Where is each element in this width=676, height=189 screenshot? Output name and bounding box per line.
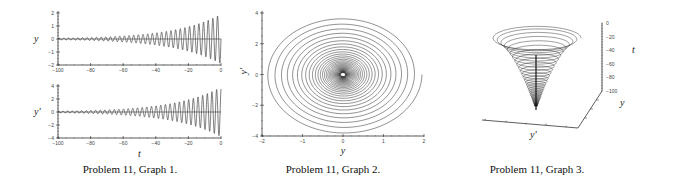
graph-1-ylabel: y	[33, 33, 39, 44]
graph-2-ylabel: y'	[238, 67, 249, 75]
svg-text:−100: −100	[52, 140, 63, 146]
graph-3-zlabel: t	[632, 44, 635, 55]
graph-1-series	[58, 89, 221, 136]
graph-1-ylabel: y'	[33, 106, 41, 117]
svg-text:−60: −60	[606, 61, 615, 67]
svg-text:−4: −4	[252, 133, 258, 139]
graph-3-xlabel: y'	[529, 129, 537, 140]
svg-text:−60: −60	[119, 67, 128, 73]
svg-text:−20: −20	[184, 67, 193, 73]
graph-2-spiral	[268, 19, 422, 133]
svg-text:−20: −20	[606, 34, 615, 40]
svg-text:2: 2	[255, 41, 258, 47]
svg-text:4: 4	[255, 10, 258, 16]
graph-2: −4−2024−2−1012yy'	[230, 0, 450, 160]
graph-3-ylabel: y	[619, 97, 625, 108]
graph-1-panel-1: −2−1012−100−80−60−40−200y	[33, 10, 223, 73]
caption-graph-1: Problem 11, Graph 1.	[83, 163, 178, 175]
svg-text:0: 0	[255, 72, 258, 78]
svg-text:1: 1	[382, 138, 385, 144]
svg-text:−100: −100	[606, 88, 617, 94]
svg-text:0: 0	[220, 140, 223, 146]
graph-1-plot: −2−1012−100−80−60−40−200y−4−2024−100−80−…	[0, 0, 230, 160]
svg-text:t: t	[138, 148, 141, 159]
graph-1: −2−1012−100−80−60−40−200y−4−2024−100−80−…	[0, 0, 230, 160]
svg-text:2: 2	[51, 96, 54, 102]
graph-2-xlabel: y	[340, 145, 346, 156]
svg-text:−2: −2	[48, 122, 54, 128]
svg-text:−2: −2	[252, 102, 258, 108]
svg-text:−100: −100	[52, 67, 63, 73]
svg-text:−40: −40	[606, 47, 615, 53]
svg-text:0: 0	[606, 20, 609, 26]
svg-text:1: 1	[51, 23, 54, 29]
svg-text:0: 0	[342, 138, 345, 144]
graph-1-panel-2: −4−2024−100−80−60−40−200y't	[33, 83, 223, 159]
graph-1-series	[58, 16, 221, 63]
svg-text:−1: −1	[48, 49, 54, 55]
svg-text:−20: −20	[184, 140, 193, 146]
svg-text:−40: −40	[152, 67, 161, 73]
caption-graph-2: Problem 11, Graph 2.	[286, 163, 381, 175]
svg-text:−40: −40	[152, 140, 161, 146]
svg-text:−60: −60	[119, 140, 128, 146]
svg-text:−80: −80	[606, 74, 615, 80]
svg-text:4: 4	[51, 83, 54, 89]
svg-text:−80: −80	[86, 67, 95, 73]
caption-graph-3: Problem 11, Graph 3.	[490, 163, 585, 175]
svg-text:0: 0	[220, 67, 223, 73]
svg-text:−80: −80	[86, 140, 95, 146]
svg-text:−1: −1	[300, 138, 306, 144]
svg-text:0: 0	[51, 36, 54, 42]
svg-text:2: 2	[51, 10, 54, 16]
graph-3-plot: 0−20−40−60−80−100tyy'	[450, 0, 676, 160]
graph-2-plot: −4−2024−2−1012yy'	[230, 0, 450, 160]
graph-3-helix	[493, 26, 581, 106]
graph-3: 0−20−40−60−80−100tyy'	[450, 0, 676, 160]
svg-text:0: 0	[51, 109, 54, 115]
svg-text:2: 2	[423, 138, 426, 144]
svg-text:−2: −2	[259, 138, 265, 144]
